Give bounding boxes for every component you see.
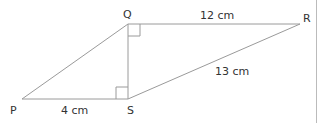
segment-PQ	[22, 24, 128, 99]
segment-SR	[128, 24, 300, 99]
label-R: R	[303, 12, 311, 25]
right-angle-marker-Q	[128, 24, 140, 36]
label-S: S	[127, 104, 134, 117]
quadrilateral-figure: Q R P S 4 cm 12 cm 13 cm	[0, 0, 318, 123]
measure-QR: 12 cm	[200, 9, 234, 22]
label-P: P	[10, 104, 17, 117]
geometry-diagram: Q R P S 4 cm 12 cm 13 cm	[0, 0, 318, 123]
measure-PS: 4 cm	[61, 104, 88, 117]
right-angle-marker-S	[116, 87, 128, 99]
measure-SR: 13 cm	[215, 65, 249, 78]
label-Q: Q	[123, 8, 132, 21]
